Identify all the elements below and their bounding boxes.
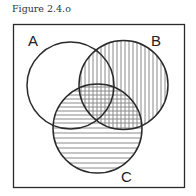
set-b-label: B	[151, 32, 161, 49]
venn-diagram: A B C	[0, 0, 196, 196]
set-c-label: C	[121, 168, 132, 185]
set-a-label: A	[28, 32, 38, 49]
